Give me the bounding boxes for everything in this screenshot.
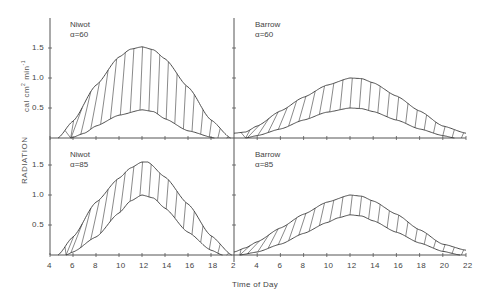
hatch-line [101, 190, 109, 234]
hatch-line [443, 127, 445, 136]
hatch-line [65, 130, 71, 138]
hatch-line [319, 86, 324, 114]
x-tick-label: 14 [162, 261, 172, 270]
x-tick-label: 8 [93, 261, 98, 270]
hatch-line [350, 195, 352, 215]
y-tick-label: 1.5 [32, 43, 44, 52]
hatch-line [461, 133, 463, 138]
x-tick-label: 4 [47, 261, 52, 270]
hatch-line [461, 250, 463, 255]
hatch-line [299, 96, 306, 121]
hatch-line [278, 107, 287, 129]
unit-cal-cm: cal cm [22, 86, 31, 112]
panel-label-barrow-85: Barrow α=85 [255, 150, 280, 170]
hatch-line [65, 247, 66, 255]
panel-site: Barrow [255, 20, 280, 30]
y-axis-unit: cal cm2 min-1 [20, 60, 31, 112]
hatch-line [218, 128, 220, 138]
hatch-line [434, 241, 436, 249]
panel-alpha: α=85 [255, 160, 280, 170]
x-tick-label: 10 [324, 261, 334, 270]
hatch-line [340, 80, 343, 110]
hatch-line [166, 62, 168, 119]
x-tick-label: 8 [301, 261, 306, 270]
x-tick-label: 6 [70, 261, 75, 270]
hatch-line [110, 59, 116, 119]
panel-label-niwot-85: Niwot α=85 [70, 150, 90, 170]
y-tick-label: 1.0 [32, 190, 44, 199]
hatch-line [443, 245, 445, 252]
panel-alpha: α=85 [70, 160, 90, 170]
hatch-line [359, 79, 361, 109]
lower-curve [240, 215, 460, 255]
hatch-line [387, 211, 389, 228]
panel-alpha: α=60 [70, 30, 90, 40]
hatch-line [452, 130, 454, 138]
hatch-line [140, 47, 143, 110]
x-tick-label: 12 [139, 261, 149, 270]
panel-site: Niwot [70, 20, 90, 30]
hatch-line [175, 74, 177, 124]
hatch-line [387, 93, 389, 117]
hatch-line [183, 202, 185, 228]
hatch-line [183, 85, 185, 129]
hatch-line [396, 215, 398, 232]
hatch-line [192, 211, 194, 234]
hatch-line [241, 133, 246, 139]
hatch-line [350, 78, 352, 108]
hatch-line [149, 164, 151, 197]
upper-curve [234, 195, 466, 252]
hatch-line [378, 86, 380, 113]
hatch-line [434, 122, 436, 133]
upper-curve [58, 47, 231, 138]
hatch-line [101, 70, 109, 124]
y-tick-label: 0.5 [32, 220, 44, 229]
panel-site: Barrow [255, 150, 280, 160]
hatch-line [149, 49, 151, 111]
x-tick-label: 22 [463, 261, 473, 270]
hatch-line [209, 120, 211, 137]
hatch-line [424, 115, 426, 130]
hatch-line [369, 200, 371, 219]
hatch-line [258, 235, 269, 252]
hatch-line [319, 203, 324, 226]
hatch-line [175, 191, 177, 218]
hatch-line [406, 222, 408, 236]
x-tick-label: 16 [185, 261, 195, 270]
upper-curve [58, 162, 232, 255]
x-tick-label: 6 [277, 261, 282, 270]
hatch-line [218, 244, 220, 253]
hatch-line [192, 95, 194, 132]
panel-label-barrow-60: Barrow α=60 [255, 20, 280, 40]
hatch-line [209, 236, 211, 249]
hatch-line [289, 101, 297, 126]
panel-site: Niwot [70, 150, 90, 160]
hatch-line [452, 247, 454, 253]
hatch-line [158, 173, 160, 201]
hatch-line [359, 196, 361, 216]
x-tick-label: 14 [370, 261, 380, 270]
hatch-line [415, 229, 417, 242]
hatch-line [81, 208, 91, 247]
unit-min: min [22, 65, 31, 82]
hatch-line [166, 180, 168, 209]
y-tick-label: 1.5 [32, 160, 44, 169]
x-tick-label: 4 [254, 261, 259, 270]
hatch-line [330, 83, 334, 112]
hatch-line [130, 167, 134, 202]
y-axis-label: RADIATION [20, 137, 29, 184]
x-axis-label: Time of Day [232, 280, 278, 289]
hatch-line [120, 53, 125, 115]
panel-alpha: α=60 [255, 30, 280, 40]
hatch-line [340, 197, 343, 218]
hatch-line [201, 226, 203, 243]
hatch-line [406, 104, 408, 124]
x-tick-label: 18 [417, 261, 427, 270]
hatch-line [201, 110, 203, 135]
hatch-line [158, 55, 160, 114]
hatch-line [424, 234, 426, 245]
x-tick-label: 2 [231, 261, 236, 270]
hatch-line [396, 97, 398, 120]
hatch-line [91, 200, 100, 240]
hatch-line [81, 92, 91, 135]
